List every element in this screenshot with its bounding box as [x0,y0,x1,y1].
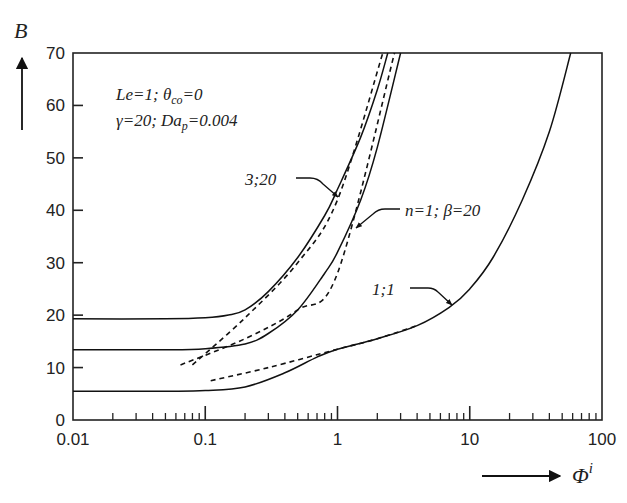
plot-frame [73,53,602,420]
curve-label-n1-beta20: n=1; β=20 [356,201,481,228]
curve-label-1-1: 1;1 [372,280,452,305]
svg-text:3;20: 3;20 [244,170,277,189]
series-line [211,326,417,381]
y-tick-label: 70 [46,44,65,63]
annotation-line-1: Le=1; θco=0 [115,85,203,107]
curve-label-3-20: 3;20 [244,170,338,197]
svg-text:n=1; β=20: n=1; β=20 [405,201,481,220]
y-tick-label: 60 [46,96,65,115]
svg-text:1;1: 1;1 [372,280,395,299]
y-tick-label: 50 [46,149,65,168]
y-axis-label: B [14,18,27,43]
x-tick-label: 10 [460,430,479,449]
x-axis-label: Φi [572,460,593,488]
annotation-line-2: γ=20; Dap=0.004 [116,111,238,133]
y-tick-label: 40 [46,201,65,220]
parameter-annotation: Le=1; θco=0 γ=20; Dap=0.004 [115,85,238,133]
y-tick-label: 0 [56,411,65,430]
y-ticks: 010203040506070 [46,44,83,430]
y-tick-label: 30 [46,254,65,273]
x-ticks: 0.010.1110100 [56,406,616,449]
x-tick-label: 1 [333,430,342,449]
chart-canvas: B Φi 010203040506070 0.010.1110100 Le=1;… [0,0,627,503]
series-line [181,53,395,365]
y-tick-label: 10 [46,359,65,378]
x-tick-label: 100 [588,430,616,449]
x-tick-label: 0.1 [193,430,217,449]
y-tick-label: 20 [46,306,65,325]
x-tick-label: 0.01 [56,430,89,449]
series-line [192,53,382,365]
